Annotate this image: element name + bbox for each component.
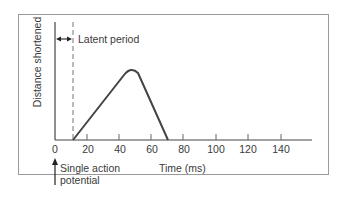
x-tick-label: 120	[239, 143, 257, 155]
x-axis-label: Time (ms)	[159, 162, 206, 174]
latent-period-arrow-icon	[56, 37, 72, 42]
x-tick-label: 40	[114, 143, 126, 155]
stimulus-arrow-icon	[52, 158, 58, 185]
x-tick-label: 0	[52, 143, 58, 155]
x-tick-label: 100	[207, 143, 225, 155]
x-tick-label: 60	[146, 143, 158, 155]
x-ticks	[87, 134, 281, 140]
latent-period-label: Latent period	[78, 33, 139, 45]
stimulus-label-line2: potential	[60, 174, 100, 186]
twitch-curve	[73, 70, 168, 140]
chart-plot	[0, 0, 342, 210]
y-axis-label: Distance shortened	[31, 17, 43, 107]
x-tick-label: 20	[82, 143, 94, 155]
stimulus-label-line1: Single action	[60, 162, 120, 174]
x-tick-label: 80	[178, 143, 190, 155]
x-tick-label: 140	[272, 143, 290, 155]
